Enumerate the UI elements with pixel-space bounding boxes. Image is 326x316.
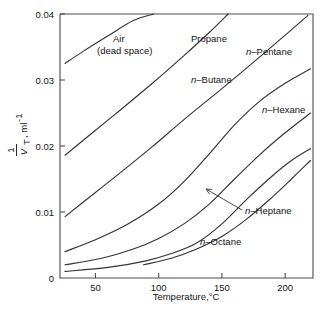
x-axis-ticks [95, 273, 285, 278]
heptane-arrow [206, 189, 242, 210]
y-axis-denominator: V [18, 147, 29, 155]
curve-air-dead-space [65, 14, 154, 64]
curve-n-pentane [65, 69, 310, 252]
y-tick-label: 0.01 [36, 207, 55, 218]
curve-labels: Air(dead space)Propanen–Butanen–Pentanen… [97, 33, 305, 247]
x-tick-label: 50 [90, 282, 101, 293]
x-tick-label: 200 [277, 282, 293, 293]
heptane-arrow-head [206, 189, 212, 190]
y-axis-title: 1 V T , ml -1 [5, 114, 32, 156]
y-tick-label: 0.03 [36, 75, 55, 86]
curve-n-hexane [65, 113, 310, 265]
curve-label-n-pentane: n–Pentane [246, 46, 292, 57]
curve-label-air-dead-space: Air [113, 33, 125, 44]
curve-label-n-octane: n–Octane [200, 236, 241, 247]
y-axis-tick-labels: 00.010.020.030.04 [36, 9, 55, 284]
curve-label-n-heptane: n–Heptane [245, 205, 292, 216]
y-axis-ticks [60, 14, 65, 212]
y-axis-units: , ml [18, 123, 29, 138]
y-tick-label: 0.04 [36, 9, 55, 20]
chart-figure: 50100150200 00.010.020.030.04 Air(dead s… [0, 0, 326, 316]
chart-annotations [206, 189, 242, 210]
y-tick-label: 0.02 [36, 141, 55, 152]
y-axis-units-exponent: -1 [13, 114, 24, 122]
x-axis-title: Temperature,°C [153, 291, 220, 302]
curve-label-n-hexane: n–Hexane [262, 104, 305, 115]
y-axis-denominator-subscript: T [21, 139, 32, 145]
y-tick-label: 0 [49, 273, 54, 284]
curve-label-n-butane: n–Butane [191, 74, 232, 85]
curve-label-air-sub: (dead space) [97, 45, 152, 56]
y-axis-numerator: 1 [5, 147, 16, 152]
curve-label-propane: Propane [191, 33, 227, 44]
line-chart: 50100150200 00.010.020.030.04 Air(dead s… [0, 0, 326, 316]
